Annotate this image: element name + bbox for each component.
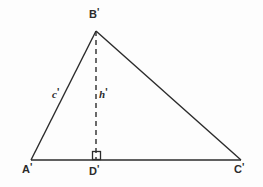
vertex-label-d: D': [89, 166, 99, 177]
segment-label-c: c': [52, 89, 59, 100]
vertex-label-b: B': [89, 9, 99, 20]
prime-mark: ': [30, 162, 32, 173]
segment-side-bc: [96, 31, 241, 160]
prime-mark: ': [97, 7, 99, 18]
prime-mark: ': [97, 164, 99, 175]
triangle-figure: [0, 0, 263, 187]
vertex-label-c: C': [234, 164, 244, 175]
segment-side-ab: [31, 31, 96, 160]
vertex-label-a: A': [22, 164, 32, 175]
diagram-canvas: A' B' C' D' c' h': [0, 0, 263, 187]
prime-mark: ': [105, 87, 107, 98]
prime-mark: ': [57, 87, 59, 98]
prime-mark: ': [242, 162, 244, 173]
segment-label-h: h': [99, 89, 108, 100]
